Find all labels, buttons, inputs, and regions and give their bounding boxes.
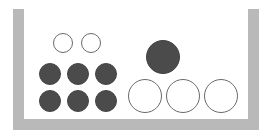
container-diagram xyxy=(0,0,268,137)
filled-small-ball xyxy=(95,90,117,112)
filled-small-ball xyxy=(67,90,89,112)
container-bottom xyxy=(13,119,259,130)
open-small-ball xyxy=(81,33,101,53)
filled-small-ball xyxy=(39,63,61,85)
open-large-ball xyxy=(166,79,200,113)
open-large-ball xyxy=(204,79,238,113)
filled-small-ball xyxy=(39,90,61,112)
filled-small-ball xyxy=(67,63,89,85)
filled-small-ball xyxy=(95,63,117,85)
container-left-wall xyxy=(13,9,24,130)
open-small-ball xyxy=(53,33,73,53)
container-right-wall xyxy=(248,9,259,130)
open-large-ball xyxy=(128,79,162,113)
filled-large-ball xyxy=(146,40,180,74)
